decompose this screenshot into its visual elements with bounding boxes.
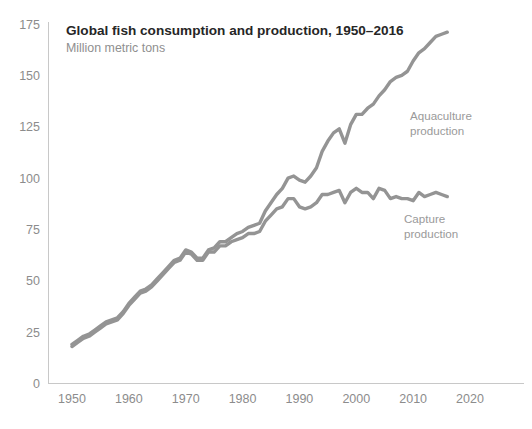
x-tick-label: 1990 — [286, 392, 314, 406]
x-tick-label: 1950 — [58, 392, 86, 406]
y-tick-label: 100 — [19, 172, 40, 186]
capture-series-label: Capture production — [404, 212, 458, 240]
x-axis-tick-labels: 19501960197019801990200020102020 — [58, 392, 484, 406]
x-tick-label: 1980 — [229, 392, 257, 406]
x-tick-label: 1970 — [172, 392, 200, 406]
x-tick-label: 2000 — [342, 392, 370, 406]
aquaculture-series-label: Aquaculture production — [410, 109, 472, 137]
y-tick-label: 0 — [33, 377, 40, 391]
chart-subtitle: Million metric tons — [66, 41, 165, 55]
capture-production-line — [72, 188, 447, 346]
y-tick-label: 50 — [26, 274, 40, 288]
x-tick-label: 1960 — [115, 392, 143, 406]
y-tick-label: 175 — [19, 18, 40, 32]
y-tick-label: 150 — [19, 69, 40, 83]
x-tick-label: 2010 — [399, 392, 427, 406]
aquaculture-label-line1: Aquaculture — [410, 109, 472, 122]
y-tick-label: 75 — [26, 223, 40, 237]
chart-title-group: Global fish consumption and production, … — [66, 23, 404, 55]
chart-container: Global fish consumption and production, … — [0, 0, 532, 429]
aquaculture-production-line — [72, 32, 447, 344]
y-tick-label: 125 — [19, 120, 40, 134]
capture-label-line1: Capture — [404, 212, 445, 225]
x-tick-label: 2020 — [456, 392, 484, 406]
y-tick-label: 25 — [26, 326, 40, 340]
fish-production-line-chart: Global fish consumption and production, … — [0, 0, 532, 429]
aquaculture-label-line2: production — [410, 124, 464, 137]
capture-label-line2: production — [404, 227, 458, 240]
chart-title: Global fish consumption and production, … — [66, 23, 404, 38]
y-axis-tick-labels: 0255075100125150175 — [19, 18, 40, 392]
